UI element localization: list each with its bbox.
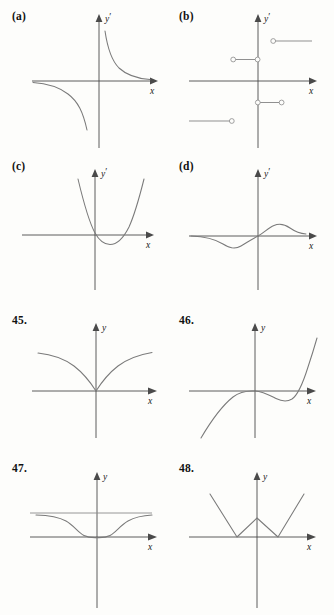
panel-47-x-axis-label: x bbox=[147, 542, 153, 552]
panel-45-y-arrowhead bbox=[93, 323, 100, 331]
panel-48-plot: x y bbox=[167, 440, 334, 615]
panel-b: (b) x bbox=[167, 0, 334, 155]
panel-46-y-axis-label: y bbox=[260, 323, 266, 333]
panel-47: 47. x y bbox=[0, 440, 167, 615]
panel-c-x-arrowhead bbox=[146, 232, 154, 239]
panel-b-y-arrowhead bbox=[255, 14, 262, 22]
panel-c-y-arrowhead bbox=[92, 169, 99, 177]
panel-d-x-axis-label: x bbox=[308, 241, 314, 251]
panel-b-y-axis-label: y′ bbox=[263, 12, 270, 24]
panel-d-plot: x y′ bbox=[167, 155, 334, 295]
panel-46-plot: x y bbox=[167, 295, 334, 440]
panel-a-x-axis-label: x bbox=[149, 86, 155, 96]
panel-46: 46. x y bbox=[167, 295, 334, 440]
panel-48-x-arrowhead bbox=[307, 534, 316, 541]
figure-page: (a) x y′ (b) bbox=[0, 0, 334, 615]
panel-47-y-axis-label: y bbox=[102, 472, 108, 482]
panel-a-y-axis-label: y′ bbox=[104, 12, 111, 24]
panel-b-open-dot-lower-right-start bbox=[255, 100, 260, 105]
panel-b-x-axis-label: x bbox=[308, 86, 314, 96]
panel-48-x-axis-label: x bbox=[306, 542, 312, 552]
panel-b-open-dot-upper-left bbox=[231, 57, 236, 62]
panel-a-branch-lower-left bbox=[33, 83, 87, 130]
panel-b-x-arrowhead bbox=[309, 78, 317, 85]
panel-a-plot: x y′ bbox=[0, 0, 167, 155]
panel-46-y-arrowhead bbox=[252, 323, 259, 331]
panel-b-open-dot-lower-left bbox=[229, 119, 234, 124]
panel-b-open-dot-lower-right-end bbox=[279, 100, 284, 105]
panel-c-y-axis-label: y′ bbox=[100, 167, 107, 179]
panel-a-y-arrowhead bbox=[96, 14, 103, 22]
panel-a: (a) x y′ bbox=[0, 0, 167, 155]
panel-45-right-branch bbox=[96, 353, 152, 392]
panel-b-plot: x y′ bbox=[167, 0, 334, 155]
panel-46-cubic bbox=[201, 338, 317, 438]
panel-46-x-arrowhead bbox=[307, 388, 316, 395]
panel-d-x-arrowhead bbox=[309, 233, 317, 240]
panel-45-x-arrowhead bbox=[148, 388, 157, 395]
panel-48-y-axis-label: y bbox=[262, 472, 268, 482]
panel-45-plot: x y bbox=[0, 295, 167, 440]
panel-45: 45. x y bbox=[0, 295, 167, 440]
panel-48-y-arrowhead bbox=[254, 472, 261, 480]
panel-a-branch-upper-right bbox=[105, 31, 150, 80]
panel-47-well-curve bbox=[36, 515, 152, 538]
panel-d-y-arrowhead bbox=[255, 169, 262, 177]
panel-b-open-dot-upper-right bbox=[271, 39, 276, 44]
panel-47-y-arrowhead bbox=[94, 472, 101, 480]
panel-45-x-axis-label: x bbox=[147, 396, 153, 406]
panel-45-y-axis-label: y bbox=[101, 323, 107, 333]
panel-46-x-axis-label: x bbox=[306, 396, 312, 406]
panel-b-open-dot-upper-left-end bbox=[255, 57, 260, 62]
panel-47-x-arrowhead bbox=[148, 534, 157, 541]
panel-c-x-axis-label: x bbox=[145, 240, 151, 250]
panel-d-y-axis-label: y′ bbox=[263, 167, 270, 179]
panel-d: (d) x y′ bbox=[167, 155, 334, 295]
panel-47-plot: x y bbox=[0, 440, 167, 615]
panel-c-plot: x y′ bbox=[0, 155, 167, 295]
panel-a-x-arrowhead bbox=[150, 78, 158, 85]
panel-c: (c) x y′ bbox=[0, 155, 167, 295]
panel-48: 48. x y bbox=[167, 440, 334, 615]
panel-45-left-branch bbox=[38, 353, 96, 391]
